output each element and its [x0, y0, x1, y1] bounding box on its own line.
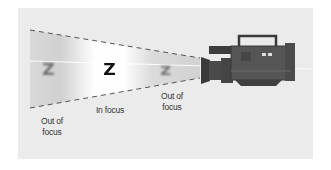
label-line: focus [152, 102, 192, 113]
label-line: In focus [88, 105, 132, 116]
label-in-focus: In focus [88, 105, 132, 116]
depth-of-field-illustration [0, 0, 331, 170]
video-camera-icon [201, 36, 295, 86]
subject-z-out-of-focus-near: Z [42, 63, 55, 78]
label-out-of-focus-right: Out of focus [152, 91, 192, 113]
subject-z-out-of-focus-far: Z [160, 63, 171, 78]
label-out-of-focus-left: Out of focus [32, 116, 72, 138]
subject-z-in-focus: Z [103, 63, 116, 78]
label-line: focus [32, 127, 72, 138]
label-line: Out of [152, 91, 192, 102]
label-line: Out of [32, 116, 72, 127]
